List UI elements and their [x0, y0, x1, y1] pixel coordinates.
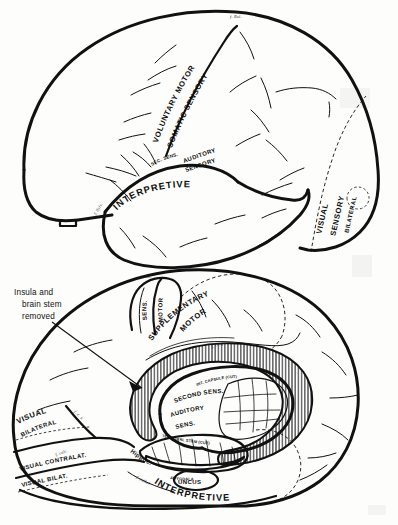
label-f-rol-medial: f. Rol. — [140, 274, 152, 279]
label-medial-sens: SENS. — [141, 300, 148, 321]
label-f-rol-lateral: f. Rol. — [230, 14, 242, 19]
callout-note-line3: removed — [22, 312, 55, 321]
callout-note-line2: brain stem — [22, 300, 62, 309]
brain-figure: VOLUNTARY MOTOR SOMATIC SENSORY SEC. SEN… — [0, 0, 398, 525]
callout-note-line1: Insula and — [14, 288, 54, 297]
brain-diagram-svg: VOLUNTARY MOTOR SOMATIC SENSORY SEC. SEN… — [0, 0, 398, 525]
